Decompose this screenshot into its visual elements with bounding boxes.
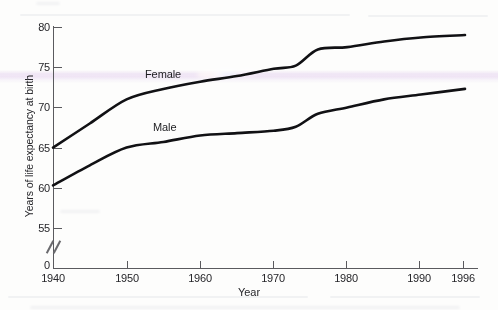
- plot-area: 80 75 70 65 60 55 0 1940 1950 1960 1970 …: [0, 0, 498, 310]
- y-axis-title: Years of life expectancy at birth: [23, 51, 35, 241]
- x-axis-title: Year: [0, 286, 498, 298]
- chart-page: 80 75 70 65 60 55 0 1940 1950 1960 1970 …: [0, 0, 498, 310]
- series-lines: [0, 0, 498, 310]
- series-label-male: Male: [153, 121, 176, 133]
- series-line-male: [53, 89, 465, 185]
- series-label-female: Female: [145, 68, 181, 80]
